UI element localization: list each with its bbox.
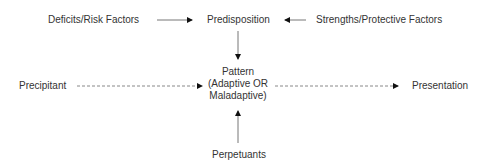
node-presentation: Presentation	[412, 80, 468, 92]
node-predisposition: Predisposition	[207, 14, 270, 26]
pattern-line-1: Pattern	[198, 66, 278, 78]
node-precipitant: Precipitant	[19, 80, 66, 92]
node-deficits-risk-factors: Deficits/Risk Factors	[48, 14, 139, 26]
node-perpetuants: Perpetuants	[212, 149, 266, 161]
pattern-line-3: Maladaptive)	[198, 90, 278, 102]
pattern-line-2: (Adaptive OR	[198, 78, 278, 90]
node-strengths-protective-factors: Strengths/Protective Factors	[316, 14, 442, 26]
node-pattern: Pattern (Adaptive OR Maladaptive)	[198, 66, 278, 102]
